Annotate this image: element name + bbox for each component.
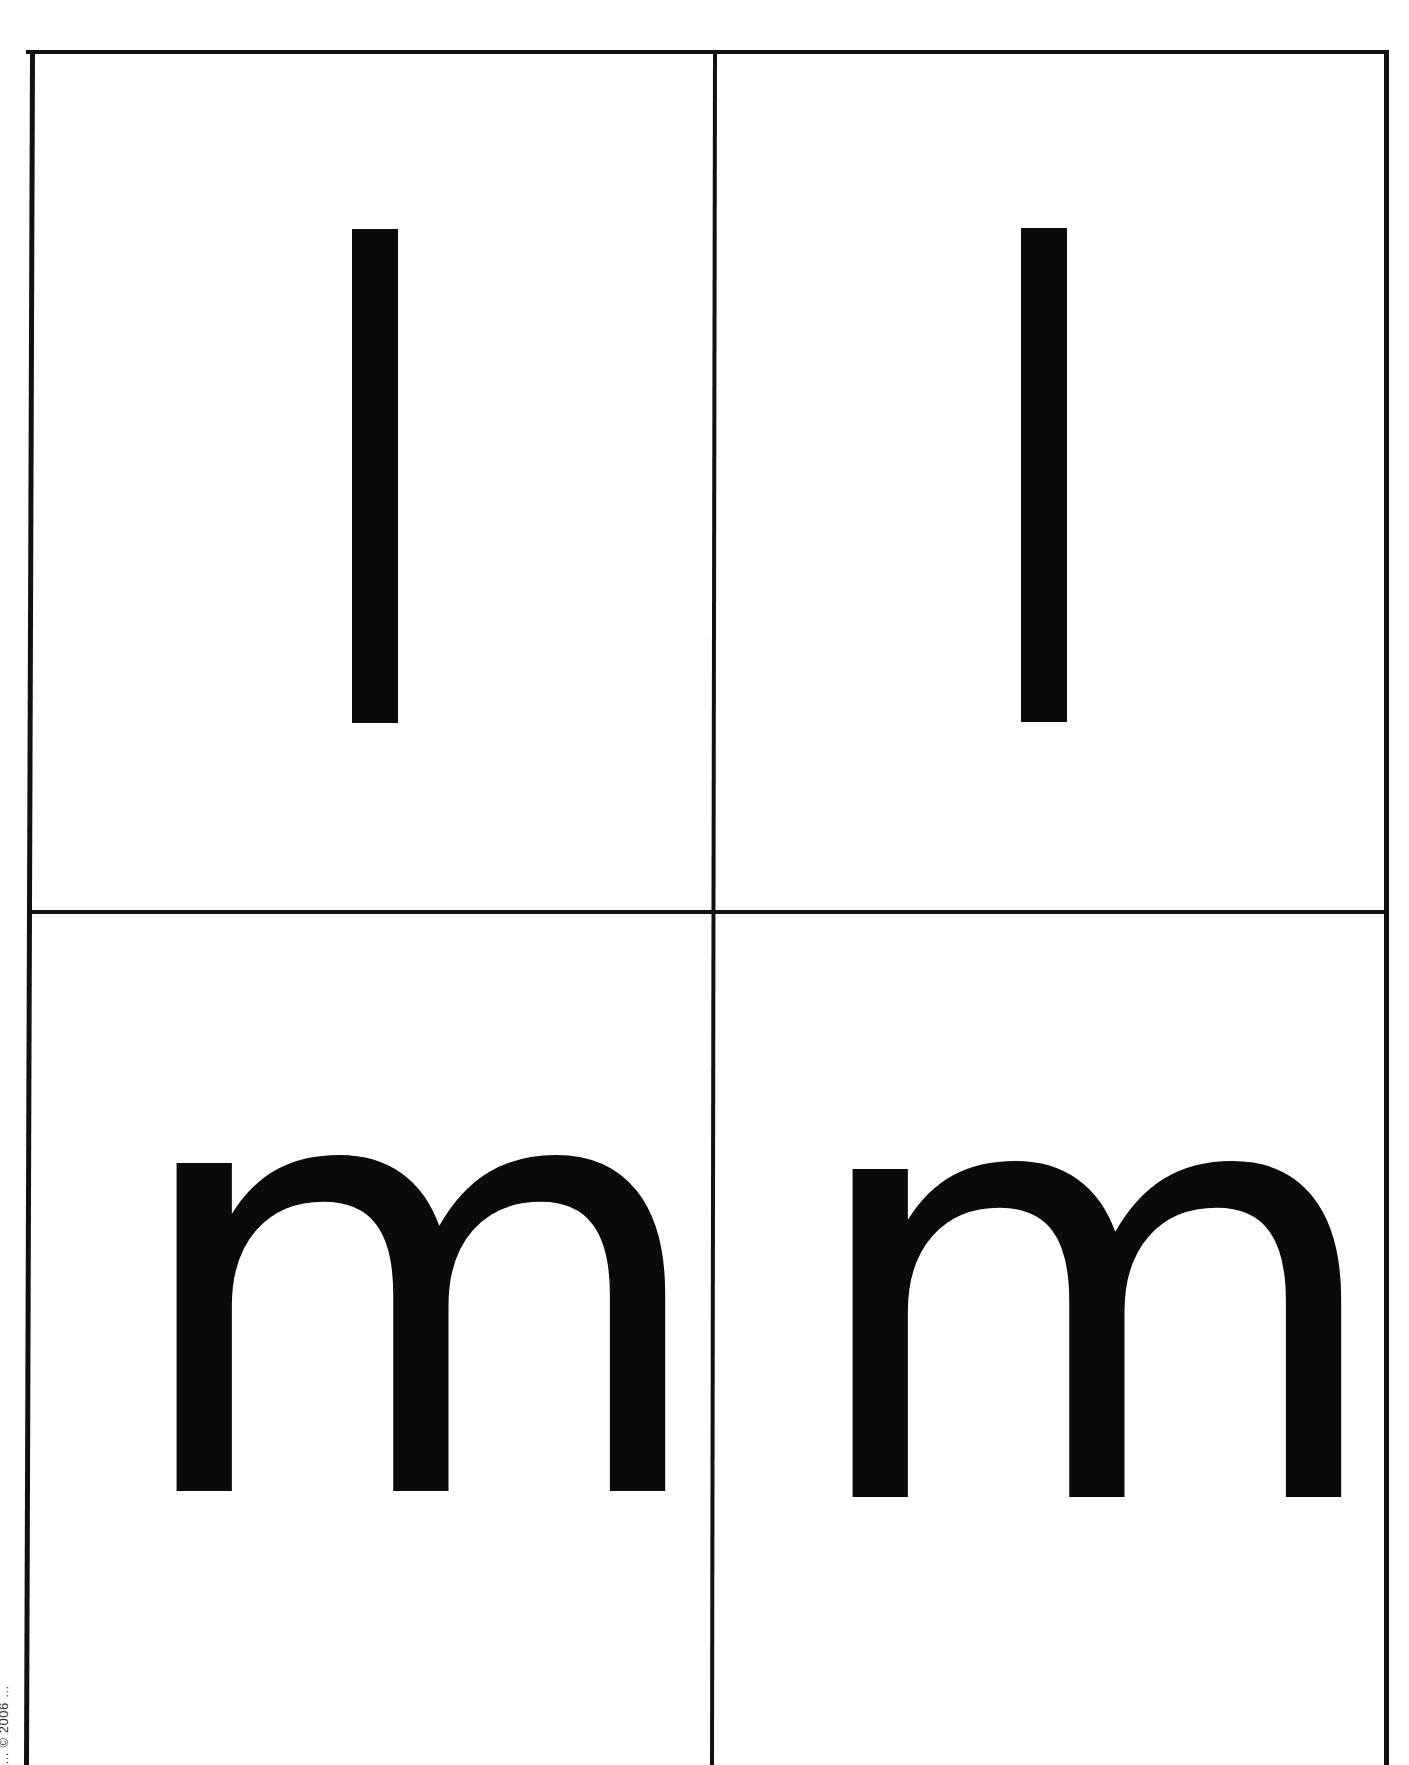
grid-border-right (1384, 50, 1389, 1765)
card-top-right (717, 54, 1384, 910)
card-bottom-left: m (35, 914, 715, 1765)
letter-m-glyph: m (121, 984, 715, 1584)
card-bottom-right: m (719, 914, 1384, 1765)
letter-l-glyph (352, 229, 398, 723)
letter-m-glyph: m (797, 990, 1384, 1590)
card-top-left (35, 54, 713, 910)
copyright-footer: … © 2006 … (0, 1685, 11, 1765)
flashcard-sheet: m m … © 2006 … (0, 0, 1409, 1765)
grid-border-left (24, 50, 35, 1765)
letter-l-glyph (1021, 228, 1067, 722)
